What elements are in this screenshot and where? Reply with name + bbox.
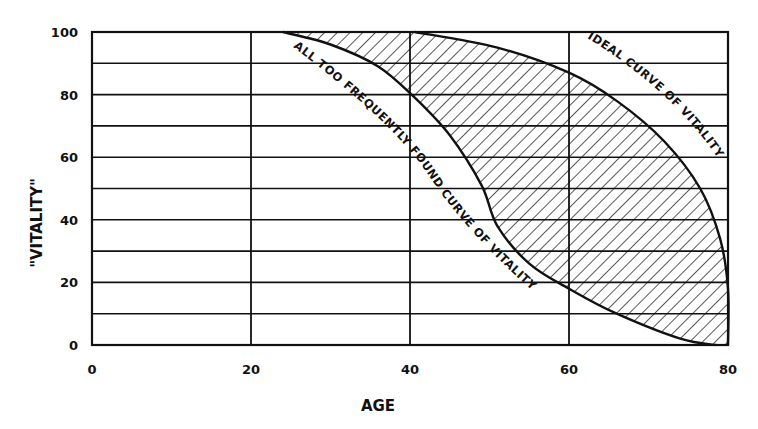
x-tick-label: 80 — [719, 362, 737, 377]
y-axis-title: "VITALITY" — [28, 178, 46, 268]
x-tick-label: 60 — [560, 362, 578, 377]
y-tick-label: 60 — [60, 150, 78, 165]
y-tick-label: 40 — [60, 213, 78, 228]
y-tick-label: 0 — [69, 338, 78, 353]
plot-area — [92, 32, 729, 345]
x-tick-label: 0 — [87, 362, 96, 377]
x-tick-label: 20 — [242, 362, 260, 377]
y-tick-label: 80 — [60, 88, 78, 103]
y-axis-ticks: 020406080100 — [51, 25, 78, 353]
y-tick-label: 100 — [51, 25, 78, 40]
y-tick-label: 20 — [60, 275, 78, 290]
x-tick-label: 40 — [401, 362, 419, 377]
x-axis-ticks: 020406080 — [87, 362, 737, 377]
vitality-chart: 020406080100 020406080 AGE "VITALITY" ID… — [0, 0, 758, 429]
x-axis-title: AGE — [361, 397, 395, 415]
